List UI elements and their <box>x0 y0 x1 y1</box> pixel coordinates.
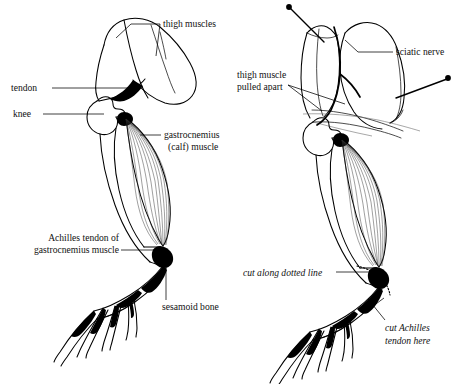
right-sesamoid-bone-shape <box>368 267 389 289</box>
thigh-lower-outline <box>96 45 104 101</box>
right-panel-dissected-limb: sciatic nerve thigh muscle pulled apart … <box>237 4 451 384</box>
label-tendon-here: tendon here <box>385 335 431 346</box>
left-panel-intact-limb: thigh muscles tendon knee gastrocnemius … <box>11 18 220 366</box>
label-cut-achilles: cut Achilles <box>385 322 430 333</box>
sesamoid-bone-shape <box>152 246 173 268</box>
foot-toes <box>54 300 137 366</box>
exposed-tissue-band-lower <box>313 122 401 138</box>
sciatic-nerve-branch <box>340 74 360 97</box>
leader-thigh-muscles <box>116 24 160 38</box>
thigh-left-lobe-inner <box>301 33 310 118</box>
label-gastrocnemius: gastrocnemius <box>164 129 220 140</box>
thigh-left-lobe-crease <box>317 29 323 116</box>
label-gastrocnemius-muscle: gastrocnemius muscle <box>34 244 119 255</box>
label-thigh-muscle: thigh muscle <box>237 69 286 80</box>
label-sesamoid-bone: sesamoid bone <box>162 301 219 312</box>
anatomical-figure: thigh muscles tendon knee gastrocnemius … <box>0 0 459 384</box>
label-thigh-muscles: thigh muscles <box>163 18 216 29</box>
thigh-right-lobe-inner <box>340 33 382 129</box>
thigh-secondary-division <box>151 25 175 93</box>
gastrocnemius-striations <box>126 119 169 245</box>
pin-right-shaft <box>396 79 447 98</box>
label-pulled-apart: pulled apart <box>237 81 283 92</box>
right-foot-toes <box>270 321 353 384</box>
pin-left-shaft <box>290 8 324 42</box>
exposed-tissue-band-upper <box>312 110 403 131</box>
ankle-dark-band <box>141 266 167 293</box>
label-calf-muscle: (calf) muscle <box>168 141 218 153</box>
tendon-dark-wedge <box>110 80 143 101</box>
thigh-outer-outline <box>104 18 196 104</box>
label-cut-along-dotted-line: cut along dotted line <box>243 267 323 278</box>
right-shank-posterior-outline <box>316 155 366 283</box>
thigh-right-lobe-outline <box>345 22 405 123</box>
label-knee: knee <box>13 108 31 119</box>
thigh-left-lobe-top-fold <box>307 33 338 38</box>
leader-sciatic-nerve <box>345 40 393 52</box>
label-sciatic-nerve: sciatic nerve <box>396 46 444 57</box>
pin-right-head <box>445 75 451 81</box>
right-gastrocnemius-striations <box>342 140 385 266</box>
shank-anterior-outline <box>114 128 144 247</box>
left-leader-lines <box>43 24 166 300</box>
right-shank-anterior-outline <box>330 149 360 268</box>
pin-left-head <box>286 4 292 10</box>
label-achilles-tendon-of: Achilles tendon of <box>48 232 120 243</box>
label-tendon: tendon <box>11 82 37 93</box>
